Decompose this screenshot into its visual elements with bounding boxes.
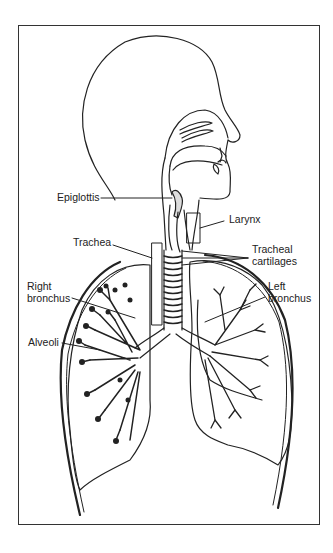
trachea-box: [152, 243, 162, 325]
label-tracheal-cartilages-line1: Tracheal: [252, 244, 292, 256]
pharynx: [162, 158, 166, 250]
label-tracheal-cartilages-line2: cartilages: [252, 256, 297, 268]
label-alveoli: Alveoli: [28, 337, 59, 349]
left-bronchial-tree: [205, 284, 268, 428]
label-left-bronchus-line2: bronchus: [268, 293, 311, 305]
head-outline: [83, 36, 240, 200]
alveoli-leader: [62, 343, 100, 350]
label-left-bronchus-line1: Left: [268, 281, 286, 293]
trachea-leader: [113, 245, 152, 258]
label-right-bronchus-line2: bronchus: [27, 293, 70, 305]
label-trachea: Trachea: [73, 237, 111, 249]
respiratory-system-illustration: [0, 0, 333, 553]
left-main-bronchus: [176, 328, 215, 356]
tracheal-rings: [164, 256, 182, 324]
left-bronchus-leader: [205, 297, 265, 322]
label-epiglottis: Epiglottis: [57, 192, 100, 204]
alveoli-clusters: [76, 283, 133, 445]
nasal-cavity: [165, 110, 228, 158]
larynx-leader: [200, 221, 224, 228]
right-main-bronchus: [135, 328, 170, 358]
label-right-bronchus-line1: Right: [27, 281, 52, 293]
mouth: [173, 161, 222, 170]
label-larynx: Larynx: [229, 214, 261, 226]
